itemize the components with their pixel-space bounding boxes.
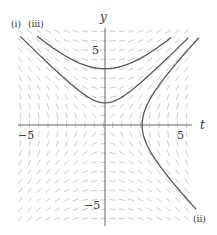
slope-segment bbox=[119, 77, 125, 79]
slope-segment bbox=[74, 95, 78, 100]
slope-segment bbox=[18, 188, 22, 193]
slope-segment bbox=[82, 68, 88, 70]
slope-segment bbox=[64, 85, 68, 90]
slope-segment bbox=[148, 141, 150, 147]
slope-segment bbox=[138, 67, 143, 70]
slope-segment bbox=[82, 86, 87, 89]
slope-segment bbox=[158, 131, 159, 137]
slope-segment bbox=[175, 29, 180, 33]
slope-segment bbox=[28, 76, 31, 81]
slope-segment bbox=[120, 132, 123, 137]
slope-segment bbox=[166, 207, 171, 211]
slope-segment bbox=[18, 39, 22, 43]
slope-segment bbox=[119, 68, 125, 70]
x-tick-neg5: −5 bbox=[18, 129, 34, 142]
slope-segment bbox=[55, 30, 60, 33]
slope-segment bbox=[119, 161, 125, 164]
slope-segment bbox=[46, 85, 49, 90]
slope-segment bbox=[110, 31, 116, 32]
slope-segment bbox=[55, 39, 60, 42]
slope-segment bbox=[46, 169, 50, 174]
slope-segment bbox=[38, 131, 39, 137]
y-tick-5: 5 bbox=[92, 44, 99, 57]
slope-segment bbox=[176, 160, 179, 166]
slope-segment bbox=[119, 199, 125, 200]
slope-segment bbox=[175, 207, 180, 211]
slope-segment bbox=[56, 103, 58, 109]
slope-segment bbox=[46, 160, 49, 165]
slope-segment bbox=[82, 151, 87, 155]
slope-segment bbox=[177, 113, 178, 119]
slope-segment bbox=[45, 30, 50, 33]
slope-segment bbox=[186, 141, 187, 147]
slope-segment bbox=[92, 113, 96, 118]
slope-segment bbox=[100, 134, 106, 135]
slope-segment bbox=[110, 96, 116, 98]
slope-segment bbox=[166, 30, 171, 34]
slope-segment bbox=[147, 58, 152, 62]
slope-segment bbox=[166, 198, 171, 202]
slope-segment bbox=[138, 199, 144, 202]
slope-segment bbox=[36, 207, 41, 211]
slope-segment bbox=[139, 141, 142, 147]
slope-segment bbox=[129, 104, 133, 109]
slope-segment bbox=[186, 103, 187, 109]
slope-segment bbox=[19, 160, 21, 166]
slope-segment bbox=[56, 141, 58, 147]
slope-segment bbox=[119, 40, 125, 41]
slope-segment bbox=[119, 190, 125, 192]
slope-segment bbox=[27, 48, 31, 52]
slope-segment bbox=[19, 179, 22, 184]
slope-segment bbox=[166, 217, 171, 221]
slope-segment bbox=[28, 188, 32, 193]
y-tick-neg5: −5 bbox=[84, 199, 100, 212]
slope-segment bbox=[129, 77, 134, 80]
slope-segment bbox=[110, 114, 115, 118]
slope-segment bbox=[156, 208, 161, 211]
slope-segment bbox=[167, 160, 170, 165]
slope-segment bbox=[110, 40, 116, 41]
slope-segment bbox=[82, 40, 88, 41]
slope-segment bbox=[28, 160, 31, 166]
slope-segment bbox=[45, 39, 50, 43]
slope-segment bbox=[27, 29, 32, 33]
slope-segment bbox=[37, 179, 41, 184]
slope-segment bbox=[138, 208, 144, 210]
slope-segment bbox=[139, 104, 142, 110]
slope-segment bbox=[128, 189, 134, 191]
slope-segment bbox=[47, 141, 49, 147]
slope-segment bbox=[147, 217, 153, 220]
slope-segment bbox=[28, 57, 32, 62]
slope-segment bbox=[28, 169, 31, 174]
slope-segment bbox=[185, 179, 188, 184]
slope-field-diagram: t y −5 5 5 −5 (i) (iii) (ii) bbox=[0, 0, 217, 235]
slope-segment bbox=[110, 143, 116, 145]
slope-segment bbox=[156, 198, 161, 202]
slope-segment bbox=[158, 113, 159, 119]
slope-segment bbox=[128, 218, 134, 220]
slope-segment bbox=[140, 131, 142, 137]
slope-segment bbox=[73, 30, 79, 32]
slope-segment bbox=[73, 49, 79, 51]
slope-segment bbox=[186, 131, 187, 137]
slope-segment bbox=[185, 66, 188, 71]
slope-segment bbox=[167, 141, 169, 147]
slope-segment bbox=[82, 190, 88, 192]
slope-segment bbox=[110, 152, 116, 154]
slope-segment bbox=[91, 190, 97, 191]
slope-segment bbox=[91, 152, 97, 154]
slope-segment bbox=[158, 141, 160, 147]
slope-segment bbox=[176, 76, 179, 81]
slope-segment bbox=[138, 179, 143, 182]
slope-segment bbox=[64, 179, 69, 183]
slope-segment bbox=[45, 207, 50, 211]
slope-segment bbox=[176, 169, 179, 174]
slope-segment bbox=[46, 198, 51, 202]
slope-segment bbox=[147, 189, 152, 193]
slope-segment bbox=[19, 150, 21, 156]
slope-segment bbox=[46, 188, 51, 192]
slope-segment bbox=[119, 151, 124, 154]
slope-segment bbox=[91, 181, 97, 182]
slope-segment bbox=[157, 150, 160, 156]
slope-segment bbox=[167, 150, 169, 156]
